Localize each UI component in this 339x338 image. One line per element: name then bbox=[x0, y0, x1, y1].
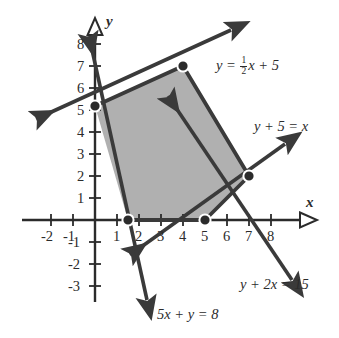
fraction-one-half: 12 bbox=[240, 56, 247, 77]
x-tick-label-6: 6 bbox=[223, 228, 230, 245]
equation-label-line-1-head: y = bbox=[216, 57, 239, 73]
x-tick-label-1: 1 bbox=[113, 228, 120, 245]
x-tick-label-4: 4 bbox=[179, 228, 186, 245]
x-tick-label-8: 8 bbox=[267, 228, 274, 245]
y-tick-label-neg3: -3 bbox=[68, 278, 80, 295]
y-tick-label-3: 3 bbox=[77, 146, 84, 163]
fraction-denominator: 2 bbox=[240, 67, 247, 77]
x-tick-label-5: 5 bbox=[201, 228, 208, 245]
x-tick-label-neg2: -2 bbox=[41, 228, 53, 245]
x-tick-label-2: 2 bbox=[135, 228, 142, 245]
vertex-point bbox=[177, 60, 188, 71]
x-axis-label: x bbox=[306, 194, 314, 211]
y-tick-label-1: 1 bbox=[77, 190, 84, 207]
y-tick-label-6: 6 bbox=[77, 80, 84, 97]
x-tick-label-7: 7 bbox=[245, 228, 252, 245]
equation-label-line-4: 5x + y = 8 bbox=[157, 306, 218, 323]
y-axis-label: y bbox=[106, 13, 113, 30]
y-tick-label-neg2: -2 bbox=[68, 256, 80, 273]
y-tick-label-8: 8 bbox=[77, 36, 84, 53]
equation-label-line-2: y + 5 = x bbox=[254, 118, 308, 135]
vertex-point bbox=[122, 214, 133, 225]
equation-label-line-1-tail: x + 5 bbox=[248, 57, 279, 73]
y-tick-label-7: 7 bbox=[77, 58, 84, 75]
vertex-point bbox=[199, 214, 210, 225]
vertex-point bbox=[243, 170, 254, 181]
equation-label-line-3: y + 2x = 15 bbox=[240, 276, 309, 293]
y-tick-label-5: 5 bbox=[77, 102, 84, 119]
y-tick-label-4: 4 bbox=[77, 124, 84, 141]
y-tick-label-2: 2 bbox=[77, 168, 84, 185]
x-tick-label-neg1: -1 bbox=[63, 228, 75, 245]
vertex-point bbox=[89, 100, 100, 111]
x-tick-label-3: 3 bbox=[157, 228, 164, 245]
equation-label-line-1: y = 12x + 5 bbox=[216, 56, 279, 77]
